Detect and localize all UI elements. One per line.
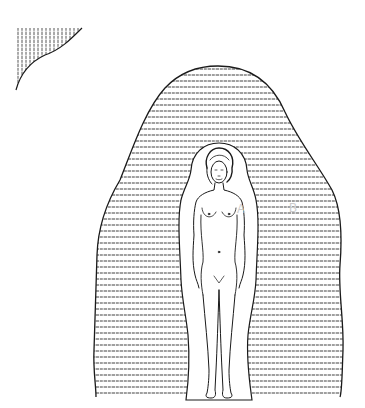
illustration-canvas: A B [0, 0, 365, 408]
inner-aura [179, 143, 258, 400]
label-b: B [289, 201, 297, 215]
label-a: A [237, 202, 245, 216]
corner-hatch-shape [16, 28, 82, 90]
